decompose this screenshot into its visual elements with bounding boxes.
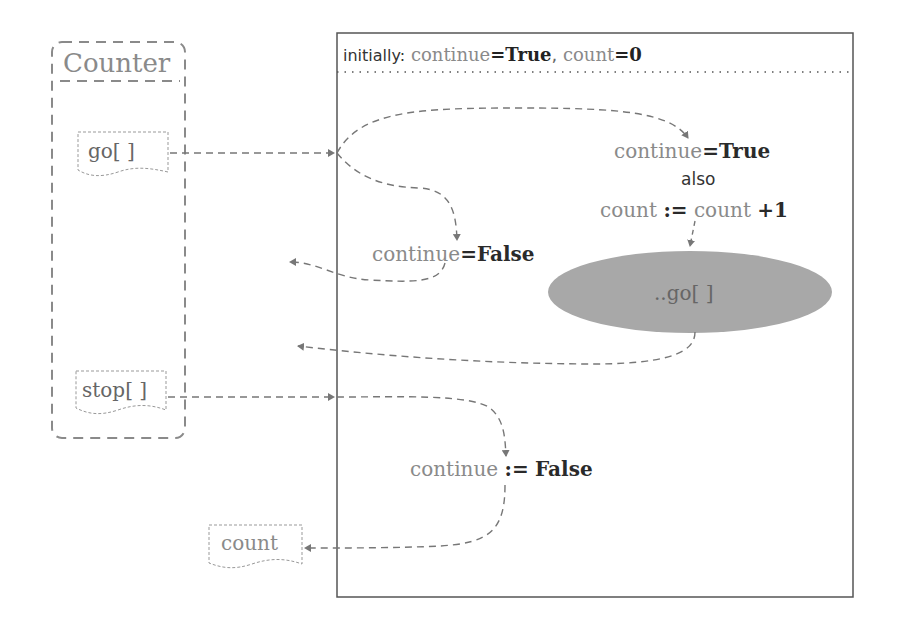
initial-label: initially: [343, 46, 405, 65]
count-increment: count := count +1 [600, 200, 788, 220]
initial-val-true: True [505, 44, 551, 65]
stop-port-label[interactable]: stop[ ] [82, 380, 147, 400]
initial-eq-1: = [490, 44, 505, 65]
go-port-label[interactable]: go[ ] [88, 141, 135, 161]
also-connector: also [681, 171, 715, 188]
go-false-condition: continue=False [372, 244, 535, 264]
initial-state-line: initially: continue=True, count=0 [343, 44, 642, 65]
initial-val-zero: 0 [629, 44, 642, 65]
initial-var-continue: continue [411, 44, 490, 65]
count-output-label: count [221, 533, 278, 553]
initial-sep: , [551, 44, 557, 65]
stop-assignment: continue := False [410, 459, 593, 479]
counter-title: Counter [63, 50, 170, 76]
initial-eq-2: = [614, 44, 629, 65]
go-true-condition: continue=True [614, 141, 770, 161]
initial-var-count: count [563, 44, 614, 65]
diagram-canvas [0, 0, 899, 630]
self-message-label: ..go[ ] [654, 283, 714, 303]
